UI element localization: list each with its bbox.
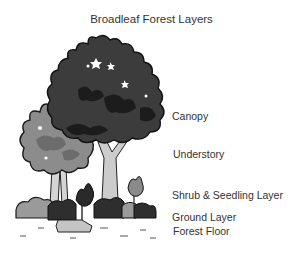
label-canopy: Canopy — [172, 110, 208, 122]
canopy-tree-crown — [47, 35, 164, 143]
label-ground-layer: Ground Layer — [172, 211, 236, 223]
label-understory: Understory — [173, 148, 224, 160]
forest-floor-rock — [56, 220, 92, 232]
canopy-trunk — [98, 138, 128, 200]
label-shrub-seedling: Shrub & Seedling Layer — [172, 189, 283, 201]
forest-illustration — [0, 0, 298, 254]
label-forest-floor: Forest Floor — [173, 225, 230, 237]
